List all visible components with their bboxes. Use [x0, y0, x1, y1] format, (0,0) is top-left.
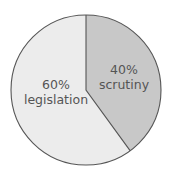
pie-chart: 40% scrutiny 60% legislation [0, 0, 171, 184]
label-scrutiny-name: scrutiny [99, 77, 150, 92]
label-legislation-name: legislation [24, 92, 88, 107]
label-legislation-percent: 60% [42, 77, 70, 92]
label-scrutiny-percent: 40% [110, 62, 138, 77]
